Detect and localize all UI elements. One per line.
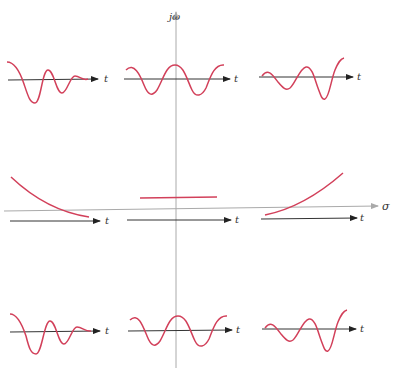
t-label-top-right: t: [357, 72, 361, 82]
t-label-top-left: t: [104, 74, 108, 84]
sigma-axis-label: σ: [382, 201, 390, 212]
growing-exponential-curve: [265, 173, 343, 215]
s-plane-diagram: jω σ t t t t t t t t t: [0, 0, 399, 379]
panel-top-right: [259, 58, 353, 99]
growing-sinusoid-curve: [262, 58, 344, 99]
panel-middle-right: [261, 173, 357, 219]
growing-sinusoid-curve: [265, 310, 347, 351]
t-label-middle-center: t: [235, 215, 239, 225]
t-label-middle-right: t: [360, 213, 364, 223]
panel-bottom-left: [10, 314, 100, 354]
panel-middle-left: [10, 177, 100, 221]
decaying-sinusoid-curve: [7, 62, 88, 103]
t-label-bottom-left: t: [105, 326, 109, 336]
panel-top-left: [7, 62, 98, 103]
decaying-sinusoid-curve: [10, 314, 91, 354]
panel-bottom-center: [128, 316, 232, 346]
jw-axis-label: jω: [169, 12, 180, 22]
t-label-top-center: t: [234, 74, 238, 84]
panel-top-center: [124, 65, 230, 95]
sinusoid-curve: [130, 316, 227, 346]
sinusoid-curve: [126, 65, 224, 95]
t-label-bottom-center: t: [236, 325, 240, 335]
diagram-graphics: [0, 0, 399, 379]
constant-line: [140, 197, 217, 198]
t-label-middle-left: t: [105, 216, 109, 226]
t-label-bottom-right: t: [360, 324, 364, 334]
panel-bottom-right: [262, 310, 356, 351]
